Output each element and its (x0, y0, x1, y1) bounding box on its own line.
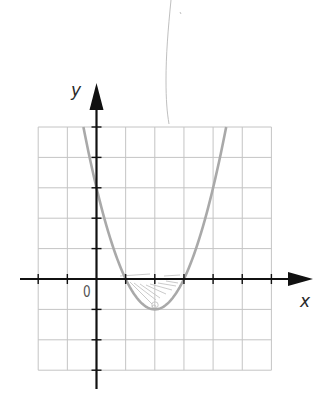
origin-label: 0 (83, 285, 91, 300)
y-axis-label: y (71, 82, 81, 99)
parabola-figure (0, 0, 332, 404)
x-axis-arrow-icon (288, 272, 313, 286)
x-axis-label: x (300, 293, 310, 310)
grid (38, 127, 271, 370)
x-axis (20, 272, 313, 286)
pencil-dot (180, 12, 181, 14)
y-axis (90, 83, 104, 389)
pencil-stroke (166, 0, 171, 124)
y-axis-arrow-icon (90, 83, 104, 110)
